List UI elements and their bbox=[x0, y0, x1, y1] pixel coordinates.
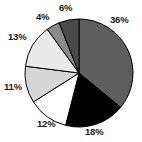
pie-slice-label: 6% bbox=[59, 3, 72, 13]
pie-slice-label: 18% bbox=[85, 127, 103, 137]
pie-chart: 36%18%12%11%13%4%6% bbox=[0, 0, 142, 142]
pie-slice-label: 11% bbox=[4, 82, 22, 92]
pie-slice-group bbox=[25, 19, 133, 127]
pie-slice-label: 4% bbox=[36, 12, 49, 22]
pie-slice-label: 12% bbox=[37, 119, 55, 129]
pie-slice-label: 36% bbox=[110, 15, 128, 25]
pie-slice-label: 13% bbox=[8, 32, 26, 42]
